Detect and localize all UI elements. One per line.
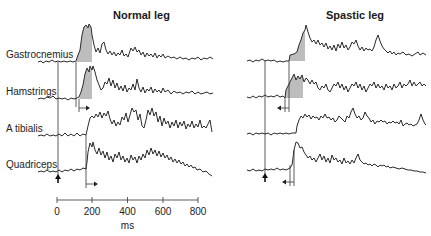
label-hamstrings: Hamstrings [6,86,57,97]
normal-gastroc-shade [76,24,92,62]
spastic-gastroc-trace [247,25,426,62]
spastic-quad-trace [247,142,426,173]
tick-200: 200 [84,206,101,217]
normal-hams-trace [38,66,213,100]
spastic-hams-arrow-left [277,106,289,111]
tick-400: 400 [119,206,136,217]
label-quadriceps: Quadriceps [6,159,57,170]
normal-stimulus-arrow-up [55,174,61,183]
normal-quad-trace [38,142,212,176]
label-a-tibialis: A tibialis [6,123,43,134]
axis-label: ms [121,220,134,231]
tick-0: 0 [54,206,60,217]
normal-quad-arrow-right [86,182,98,187]
panel-title-spastic: Spastic leg [326,9,384,21]
spastic-hams-trace [247,74,426,98]
normal-tib-trace [38,108,212,136]
label-gastrocnemius: Gastrocnemius [6,49,73,60]
tick-800: 800 [190,206,207,217]
spastic-stimulus-arrow-up [262,173,268,182]
emg-figure: Normal leg Spastic leg Gastrocnemius Ham… [0,0,431,236]
spastic-tib-trace [247,108,426,135]
normal-hams-arrow-right [79,106,90,111]
panel-title-normal: Normal leg [113,9,170,21]
spastic-leg-panel [247,25,426,186]
tick-600: 600 [155,206,172,217]
time-axis: 0 200 400 600 800 ms [54,197,207,231]
spastic-quad-arrow-left [282,180,294,185]
